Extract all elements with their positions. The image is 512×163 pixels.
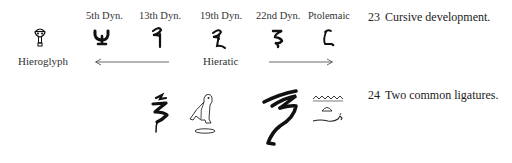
column-label-13th-dyn: 13th Dyn. (139, 10, 181, 21)
figure-23-caption-text: Cursive development. (385, 10, 490, 24)
column-label-22nd-dyn: 22nd Dyn. (256, 10, 300, 21)
hieratic-13th-dyn-icon (149, 26, 165, 48)
figure-23-caption: 23Cursive development. (368, 10, 490, 25)
hieratic-5th-dyn-icon (92, 28, 112, 46)
arrow-right-icon (268, 58, 334, 66)
hieratic-ligature-2-icon (260, 88, 302, 150)
hieratic-ptolemaic-icon (320, 28, 336, 48)
arrow-left-icon (94, 58, 170, 66)
column-label-19th-dyn: 19th Dyn. (200, 10, 242, 21)
hieroglyph-label: Hieroglyph (18, 55, 68, 67)
nfr-sign-icon (32, 26, 48, 48)
figure-24-caption: 24Two common ligatures. (368, 88, 498, 103)
hieratic-ligature-1-icon (150, 92, 172, 134)
figure-24-caption-text: Two common ligatures. (385, 88, 498, 102)
figure-24-number: 24 (368, 88, 380, 102)
hieratic-label: Hieratic (203, 55, 238, 67)
hieratic-19th-dyn-icon (210, 28, 228, 50)
owl-hieroglyph-icon (186, 92, 218, 137)
figure-23-number: 23 (368, 10, 380, 24)
column-label-5th-dyn: 5th Dyn. (86, 10, 123, 21)
water-bread-snake-hieroglyph-icon (310, 92, 346, 128)
hieratic-22nd-dyn-icon (270, 28, 286, 48)
column-label-ptolemaic: Ptolemaic (308, 10, 350, 21)
